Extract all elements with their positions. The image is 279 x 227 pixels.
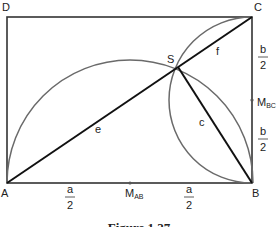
figure-caption: Figure 1.27	[108, 220, 171, 227]
fraction-a-half-right: a 2	[184, 183, 194, 211]
svg-text:a: a	[186, 183, 193, 195]
svg-text:a: a	[67, 183, 74, 195]
thales-semicircle-bc	[169, 17, 252, 183]
svg-text:2: 2	[186, 199, 192, 211]
diagonal-ac	[7, 17, 252, 183]
label-c: C	[254, 1, 262, 13]
fraction-b-half-top: b 2	[258, 43, 268, 71]
midpoint-bc-dot	[250, 98, 253, 101]
fraction-b-half-bottom: b 2	[258, 125, 268, 153]
fraction-a-half-left: a 2	[65, 183, 75, 211]
svg-text:2: 2	[67, 199, 73, 211]
svg-text:2: 2	[260, 59, 266, 71]
label-d: D	[2, 1, 10, 13]
label-m-ab: MAB	[125, 187, 144, 200]
geometry-figure: D C A B S e f c MAB MBC a 2 a 2 b 2 b 2 …	[0, 0, 279, 227]
svg-text:b: b	[260, 125, 266, 137]
label-c-segment: c	[199, 116, 205, 128]
svg-text:2: 2	[260, 141, 266, 153]
label-b: B	[252, 187, 259, 199]
midpoint-ab-dot	[128, 181, 131, 184]
svg-text:b: b	[260, 43, 266, 55]
label-m-bc: MBC	[257, 96, 276, 109]
label-f: f	[216, 45, 220, 57]
thales-semicircle-ab	[7, 60, 253, 183]
label-e: e	[95, 123, 101, 135]
label-a: A	[1, 187, 9, 199]
segment-sb	[178, 67, 252, 183]
label-s: S	[167, 53, 174, 65]
